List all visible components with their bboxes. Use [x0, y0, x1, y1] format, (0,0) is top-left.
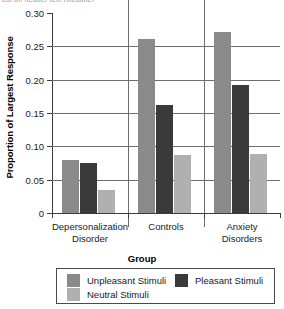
legend-item: Neutral Stimuli	[67, 288, 149, 301]
bar	[80, 163, 97, 213]
y-tick-label: 0.25	[26, 41, 45, 52]
y-tick-label: 0.05	[26, 174, 45, 185]
bar	[232, 85, 249, 213]
y-tick-label: 0.30	[26, 8, 45, 19]
y-tick-label: 0	[39, 208, 44, 219]
y-tick-label: 0.15	[26, 108, 45, 119]
legend-swatch	[67, 274, 80, 287]
group-separator	[128, 0, 129, 227]
bar	[174, 155, 191, 213]
chart-legend: Unpleasant StimuliPleasant StimuliNeutra…	[56, 268, 275, 304]
gridline	[52, 80, 280, 81]
y-axis-title: Proportion of Largest Response	[4, 13, 15, 203]
x-tick-mark	[280, 213, 281, 218]
x-tick-mark	[52, 213, 53, 218]
bar	[156, 105, 173, 213]
plot-area	[52, 13, 280, 213]
bar	[138, 39, 155, 213]
legend-label: Neutral Stimuli	[87, 289, 149, 300]
x-tick-mark	[204, 213, 205, 218]
category-label: Controls	[122, 221, 210, 233]
bar	[250, 154, 267, 213]
legend-item: Pleasant Stimuli	[175, 274, 263, 287]
legend-item: Unpleasant Stimuli	[67, 274, 166, 287]
category-label: Depersonalization Disorder	[46, 221, 134, 244]
bar	[62, 160, 79, 213]
legend-swatch	[67, 288, 80, 301]
legend-label: Unpleasant Stimuli	[87, 275, 166, 286]
legend-swatch	[175, 274, 188, 287]
legend-label: Pleasant Stimuli	[195, 275, 263, 286]
gridline	[52, 46, 280, 47]
x-tick-mark	[128, 213, 129, 218]
y-tick-mark	[47, 13, 52, 14]
category-label: Anxiety Disorders	[198, 221, 284, 244]
group-separator	[204, 0, 205, 227]
y-tick-label: 0.10	[26, 141, 45, 152]
x-axis-line	[52, 213, 280, 214]
bar	[214, 32, 231, 213]
bar	[98, 190, 115, 213]
y-tick-label: 0.20	[26, 74, 45, 85]
x-axis-title: Group	[0, 253, 284, 264]
